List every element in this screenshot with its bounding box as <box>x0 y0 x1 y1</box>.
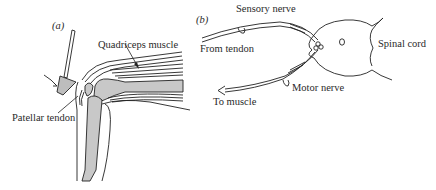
patellar-tendon-pointer <box>58 96 78 113</box>
quadriceps-muscle-label: Quadriceps muscle <box>98 40 178 51</box>
spinal-cord-label: Spinal cord <box>378 39 426 50</box>
knee-anatomy <box>44 30 190 181</box>
from-tendon-label: From tendon <box>200 44 254 55</box>
central-canal <box>340 39 345 45</box>
to-muscle-label: To muscle <box>213 97 256 108</box>
panel-a-marker: (a) <box>52 21 64 32</box>
spinal-cord-outline <box>314 18 383 35</box>
patellar-tendon-label: Patellar tendon <box>12 113 75 124</box>
to-muscle-arrowhead-icon <box>218 86 225 95</box>
knee-jerk-reflex-diagram <box>0 0 436 190</box>
panel-b-marker: (b) <box>196 15 208 26</box>
motor-nerve-label: Motor nerve <box>292 83 344 94</box>
reflex-hammer-icon <box>44 30 76 95</box>
sensory-nerve-label: Sensory nerve <box>236 4 296 15</box>
